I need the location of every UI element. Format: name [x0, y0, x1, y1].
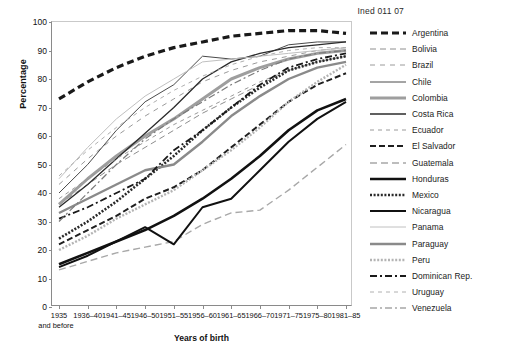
y-tick-label: 30	[23, 217, 47, 227]
x-tick-label-main: 1946–50	[131, 311, 160, 320]
legend-label: Uruguay	[412, 287, 444, 297]
legend-label: El Salvador	[412, 141, 455, 151]
series-line	[59, 31, 346, 99]
y-tick-mark	[49, 79, 52, 80]
legend-swatch-icon	[370, 302, 406, 314]
y-tick-mark	[49, 108, 52, 109]
legend-swatch-icon	[370, 173, 406, 185]
y-tick-mark	[49, 136, 52, 137]
legend-item[interactable]: Bolivia	[370, 41, 515, 57]
legend-item[interactable]: Chile	[370, 74, 515, 90]
legend: ArgentinaBoliviaBrazilChileColombiaCosta…	[370, 25, 515, 316]
y-tick-label: 50	[23, 160, 47, 170]
x-axis-title: Years of birth	[51, 333, 352, 343]
legend-item[interactable]: Argentina	[370, 25, 515, 41]
y-tick-mark	[49, 51, 52, 52]
x-tick-label-main: 1935	[51, 311, 67, 320]
legend-item[interactable]: Panama	[370, 219, 515, 235]
series-line	[59, 99, 346, 264]
x-tick-label-main: 1936–40	[73, 311, 102, 320]
x-tick-label: 1935and before	[44, 311, 73, 330]
x-tick-label: 1941–45	[102, 311, 131, 320]
legend-item[interactable]: Honduras	[370, 171, 515, 187]
legend-label: Panama	[412, 222, 444, 232]
x-tick-label-main: 1956–60	[188, 311, 217, 320]
x-tick-mark	[346, 305, 347, 309]
y-tick-label: 100	[23, 17, 47, 27]
y-tick-mark	[49, 22, 52, 23]
legend-swatch-icon	[370, 238, 406, 250]
y-tick-label: 40	[23, 188, 47, 198]
legend-label: Nicaragua	[412, 206, 451, 216]
chart-page: Ined 011 07 Percentage 01020304050607080…	[0, 0, 517, 356]
legend-swatch-icon	[370, 205, 406, 217]
x-tick-mark	[116, 305, 117, 309]
legend-swatch-icon	[370, 124, 406, 136]
y-tick-label: 80	[23, 74, 47, 84]
legend-swatch-icon	[370, 43, 406, 55]
legend-label: Bolivia	[412, 44, 437, 54]
plot-area: Percentage 0102030405060708090100 1935an…	[51, 21, 352, 306]
x-tick-label: 1946–50	[131, 311, 160, 320]
series-line	[59, 42, 346, 193]
x-tick-label-main: 1971–75	[274, 311, 303, 320]
legend-label: Venezuela	[412, 303, 452, 313]
y-tick-label: 70	[23, 103, 47, 113]
legend-item[interactable]: Paraguay	[370, 235, 515, 251]
y-tick-label: 20	[23, 245, 47, 255]
x-tick-mark	[289, 305, 290, 309]
source-code-label: Ined 011 07	[358, 6, 404, 16]
legend-item[interactable]: Dominican Rep.	[370, 268, 515, 284]
x-tick-label: 1956–60	[188, 311, 217, 320]
legend-item[interactable]: Colombia	[370, 90, 515, 106]
x-tick-label: 1981–85	[332, 311, 361, 320]
x-tick-label-main: 1941–45	[102, 311, 131, 320]
x-tick-label-main: 1966–70	[246, 311, 275, 320]
legend-swatch-icon	[370, 254, 406, 266]
legend-item[interactable]: Guatemala	[370, 155, 515, 171]
legend-label: Honduras	[412, 174, 449, 184]
legend-item[interactable]: Mexico	[370, 187, 515, 203]
legend-item[interactable]: Venezuela	[370, 300, 515, 316]
legend-swatch-icon	[370, 286, 406, 298]
series-line	[59, 62, 346, 213]
legend-item[interactable]: Ecuador	[370, 122, 515, 138]
x-tick-mark	[59, 305, 60, 309]
legend-swatch-icon	[370, 27, 406, 39]
legend-swatch-icon	[370, 59, 406, 71]
legend-swatch-icon	[370, 140, 406, 152]
x-tick-label-main: 1961–65	[217, 311, 246, 320]
x-tick-label-main: 1951–55	[159, 311, 188, 320]
legend-label: Dominican Rep.	[412, 271, 472, 281]
legend-swatch-icon	[370, 189, 406, 201]
legend-item[interactable]: El Salvador	[370, 138, 515, 154]
legend-item[interactable]: Peru	[370, 252, 515, 268]
x-tick-mark	[203, 305, 204, 309]
series-line	[59, 102, 346, 267]
x-tick-label: 1971–75	[274, 311, 303, 320]
x-tick-label: 1966–70	[246, 311, 275, 320]
x-tick-label-main: 1975–80	[303, 311, 332, 320]
y-tick-mark	[49, 165, 52, 166]
y-tick-label: 90	[23, 46, 47, 56]
x-tick-mark	[231, 305, 232, 309]
x-tick-label: 1961–65	[217, 311, 246, 320]
legend-item[interactable]: Nicaragua	[370, 203, 515, 219]
y-tick-mark	[49, 307, 52, 308]
x-tick-label: 1951–55	[159, 311, 188, 320]
x-tick-label: 1936–40	[73, 311, 102, 320]
x-tick-mark	[88, 305, 89, 309]
legend-item[interactable]: Brazil	[370, 57, 515, 73]
legend-label: Peru	[412, 255, 430, 265]
legend-item[interactable]: Costa Rica	[370, 106, 515, 122]
legend-label: Guatemala	[412, 158, 453, 168]
legend-label: Argentina	[412, 28, 448, 38]
legend-label: Mexico	[412, 190, 439, 200]
legend-swatch-icon	[370, 270, 406, 282]
x-tick-mark	[145, 305, 146, 309]
x-tick-mark	[260, 305, 261, 309]
legend-label: Costa Rica	[412, 109, 453, 119]
x-tick-label: 1975–80	[303, 311, 332, 320]
legend-item[interactable]: Uruguay	[370, 284, 515, 300]
x-tick-mark	[317, 305, 318, 309]
